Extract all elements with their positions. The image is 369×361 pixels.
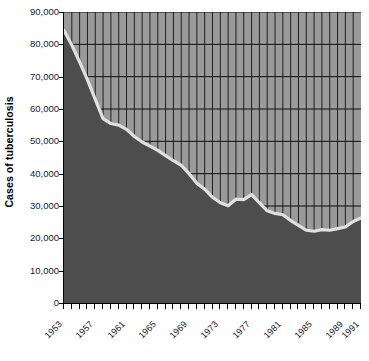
y-axis-tick-label: 90,000: [18, 7, 59, 17]
tuberculosis-area-chart: Cases of tuberculosis 010,00020,00030,00…: [0, 0, 369, 361]
y-axis-tick-label: 60,000: [18, 104, 59, 114]
x-axis-tick-mark: [321, 304, 322, 309]
x-axis-tick-mark: [126, 304, 127, 309]
x-axis-tick-mark: [360, 304, 361, 309]
x-axis-tick-mark: [344, 304, 345, 309]
x-axis-tick-mark: [290, 304, 291, 309]
y-axis-title: Cases of tuberculosis: [0, 0, 18, 303]
x-axis-tick-mark: [157, 304, 158, 309]
x-axis-tick-mark: [266, 304, 267, 309]
x-axis-tick-mark: [227, 304, 228, 309]
x-axis-tick-mark: [63, 304, 64, 309]
x-axis-tick-label: 1969: [168, 319, 189, 340]
x-axis-tick-mark: [251, 304, 252, 309]
x-axis-tick-mark: [329, 304, 330, 309]
x-axis-tick-mark: [180, 304, 181, 309]
x-axis-tick-mark: [86, 304, 87, 309]
y-axis-tick-labels: 010,00020,00030,00040,00050,00060,00070,…: [18, 0, 59, 320]
x-axis-tick-mark: [204, 304, 205, 309]
x-axis-tick-mark: [165, 304, 166, 309]
x-axis-tick-label: 1965: [136, 319, 157, 340]
x-axis-tick-mark: [79, 304, 80, 309]
x-axis-tick-mark: [94, 304, 95, 309]
plot-svg: [64, 12, 361, 303]
y-axis-tick-label: 80,000: [18, 39, 59, 49]
x-axis-tick-mark: [274, 304, 275, 309]
x-axis-tick-mark: [235, 304, 236, 309]
x-axis-tick-label: 1973: [199, 319, 220, 340]
x-axis-tick-mark: [258, 304, 259, 309]
x-axis-tick-label: 1961: [105, 319, 126, 340]
x-axis-tick-mark: [141, 304, 142, 309]
x-axis-tick-mark: [133, 304, 134, 309]
x-axis-tick-label: 1957: [74, 319, 95, 340]
x-axis-tick-mark: [196, 304, 197, 309]
x-axis-tick-mark: [110, 304, 111, 309]
y-axis-tick-label: 40,000: [18, 169, 59, 179]
x-axis-tick-mark: [102, 304, 103, 309]
x-axis-tick-labels: 1953195719611965196919731977198119851989…: [0, 310, 369, 355]
y-axis-tick-label: 70,000: [18, 72, 59, 82]
x-axis-tick-mark: [282, 304, 283, 309]
x-axis-tick-mark: [118, 304, 119, 309]
y-axis-tick-label: 30,000: [18, 201, 59, 211]
x-axis-tick-label: 1953: [43, 319, 64, 340]
x-axis-tick-label: 1981: [261, 319, 282, 340]
x-axis-tick-mark: [172, 304, 173, 309]
x-axis-tick-mark: [212, 304, 213, 309]
x-axis-tick-mark: [337, 304, 338, 309]
y-axis-title-text: Cases of tuberculosis: [3, 96, 15, 207]
x-axis-tick-mark: [243, 304, 244, 309]
y-axis-tick-label: 0: [18, 298, 59, 308]
x-axis-tick-mark: [305, 304, 306, 309]
x-axis-tick-mark: [188, 304, 189, 309]
x-axis-tick-mark: [219, 304, 220, 309]
y-axis-tick-label: 20,000: [18, 233, 59, 243]
x-axis-tick-mark: [297, 304, 298, 309]
y-axis-tick-label: 10,000: [18, 266, 59, 276]
x-axis-tick-mark: [71, 304, 72, 309]
x-axis-tick-mark: [313, 304, 314, 309]
x-axis-tick-label: 1991: [340, 319, 361, 340]
x-axis-tick-label: 1985: [293, 319, 314, 340]
plot-area: [63, 12, 361, 304]
x-axis-tick-label: 1977: [230, 319, 251, 340]
x-axis-tick-mark: [352, 304, 353, 309]
x-axis-tick-mark: [149, 304, 150, 309]
y-axis-tick-label: 50,000: [18, 136, 59, 146]
